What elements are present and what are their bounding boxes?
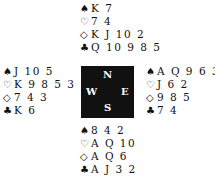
north-hand: ♠K 7 ♡7 4 ◇K J 10 2 ♣Q 10 9 8 5	[80, 2, 161, 54]
east-hand: ♠A Q 9 6 3 ♡J 6 2 ◇9 8 5 ♣7 4	[146, 65, 215, 117]
south-spades: ♠8 4 2	[80, 124, 137, 137]
east-hearts: ♡J 6 2	[146, 78, 215, 91]
west-diamonds: ◇7 4 3	[3, 91, 75, 104]
compass-box: N W E S	[81, 66, 134, 118]
east-clubs: ♣7 4	[146, 104, 215, 117]
compass-north: N	[103, 69, 112, 80]
north-spades: ♠K 7	[80, 2, 161, 15]
compass-west: W	[86, 86, 97, 97]
west-spades: ♠J 10 5	[3, 65, 75, 78]
club-icon: ♣	[146, 104, 157, 117]
south-hand: ♠8 4 2 ♡A Q 10 ◇A Q 6 ♣A J 3 2	[80, 124, 137, 176]
heart-icon: ♡	[80, 137, 91, 150]
diamond-icon: ◇	[80, 150, 91, 163]
south-hearts: ♡A Q 10	[80, 137, 137, 150]
club-icon: ♣	[80, 41, 91, 54]
spade-icon: ♠	[146, 65, 157, 78]
spade-icon: ♠	[80, 124, 91, 137]
heart-icon: ♡	[3, 78, 14, 91]
heart-icon: ♡	[146, 78, 157, 91]
spade-icon: ♠	[80, 2, 91, 15]
south-diamonds: ◇A Q 6	[80, 150, 137, 163]
club-icon: ♣	[3, 104, 14, 117]
north-hearts: ♡7 4	[80, 15, 161, 28]
compass-east: E	[121, 86, 129, 97]
compass-south: S	[104, 102, 111, 113]
north-clubs: ♣Q 10 9 8 5	[80, 41, 161, 54]
club-icon: ♣	[80, 163, 91, 176]
diamond-icon: ◇	[146, 91, 157, 104]
west-hearts: ♡K 9 8 5 3	[3, 78, 75, 91]
west-clubs: ♣K 6	[3, 104, 75, 117]
east-spades: ♠A Q 9 6 3	[146, 65, 215, 78]
spade-icon: ♠	[3, 65, 14, 78]
heart-icon: ♡	[80, 15, 91, 28]
diamond-icon: ◇	[80, 28, 91, 41]
south-clubs: ♣A J 3 2	[80, 163, 137, 176]
east-diamonds: ◇9 8 5	[146, 91, 215, 104]
diamond-icon: ◇	[3, 91, 14, 104]
north-diamonds: ◇K J 10 2	[80, 28, 161, 41]
west-hand: ♠J 10 5 ♡K 9 8 5 3 ◇7 4 3 ♣K 6	[3, 65, 75, 117]
